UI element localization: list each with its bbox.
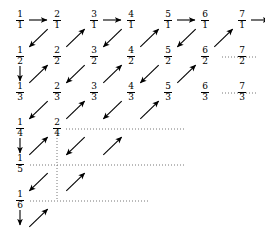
numerator: 5 bbox=[161, 10, 175, 19]
fraction-cell: 12 bbox=[13, 46, 27, 66]
diagonal-arrow-up-right bbox=[66, 29, 84, 47]
cantor-diagonal-figure: 1121314151617112223242526272132333435363… bbox=[0, 0, 265, 229]
denominator: 1 bbox=[235, 21, 249, 30]
fraction-cell: 71 bbox=[235, 10, 249, 30]
fraction-cell: 73 bbox=[235, 82, 249, 102]
diagonal-arrow-down-left bbox=[103, 29, 121, 47]
numerator: 5 bbox=[161, 46, 175, 55]
denominator: 5 bbox=[13, 165, 27, 174]
numerator: 4 bbox=[124, 46, 138, 55]
denominator: 4 bbox=[50, 129, 64, 138]
fraction-cell: 31 bbox=[87, 10, 101, 30]
denominator: 2 bbox=[13, 57, 27, 66]
numerator: 1 bbox=[13, 10, 27, 19]
arrow-layer bbox=[0, 0, 265, 229]
numerator: 7 bbox=[235, 46, 249, 55]
diagonal-arrow-up-right bbox=[214, 29, 232, 47]
diagonal-arrow-up-right bbox=[29, 137, 47, 155]
denominator: 6 bbox=[13, 201, 27, 210]
fraction-cell: 52 bbox=[161, 46, 175, 66]
fraction-cell: 21 bbox=[50, 10, 64, 30]
numerator: 2 bbox=[50, 10, 64, 19]
diagonal-arrow-up-right bbox=[29, 65, 47, 83]
denominator: 3 bbox=[198, 93, 212, 102]
diagonal-arrow-down-left bbox=[177, 29, 195, 47]
fraction-cell: 63 bbox=[198, 82, 212, 102]
numerator: 4 bbox=[124, 10, 138, 19]
numerator: 1 bbox=[13, 46, 27, 55]
numerator: 6 bbox=[198, 10, 212, 19]
numerator: 1 bbox=[13, 82, 27, 91]
numerator: 3 bbox=[87, 82, 101, 91]
numerator: 6 bbox=[198, 82, 212, 91]
diagonal-arrow-down-left bbox=[140, 65, 158, 83]
diagonal-arrow-up-right bbox=[140, 101, 158, 119]
numerator: 7 bbox=[235, 82, 249, 91]
denominator: 4 bbox=[13, 129, 27, 138]
fraction-cell: 15 bbox=[13, 154, 27, 174]
fraction-cell: 23 bbox=[50, 82, 64, 102]
diagonal-arrow-up-right bbox=[103, 65, 121, 83]
fraction-cell: 51 bbox=[161, 10, 175, 30]
fraction-cell: 42 bbox=[124, 46, 138, 66]
diagonal-arrow-up-right bbox=[29, 209, 47, 227]
diagonal-arrow-down-left bbox=[29, 29, 47, 47]
denominator: 1 bbox=[50, 21, 64, 30]
denominator: 1 bbox=[124, 21, 138, 30]
denominator: 2 bbox=[235, 57, 249, 66]
fraction-cell: 33 bbox=[87, 82, 101, 102]
fraction-cell: 13 bbox=[13, 82, 27, 102]
diagonal-arrow-up-right bbox=[140, 29, 158, 47]
diagonal-arrow-up-right bbox=[103, 137, 121, 155]
denominator: 2 bbox=[198, 57, 212, 66]
denominator: 3 bbox=[50, 93, 64, 102]
numerator: 5 bbox=[161, 82, 175, 91]
denominator: 2 bbox=[50, 57, 64, 66]
numerator: 2 bbox=[50, 82, 64, 91]
fraction-cell: 41 bbox=[124, 10, 138, 30]
diagonal-arrow-down-left bbox=[66, 137, 84, 155]
diagonal-arrow-down-left bbox=[29, 173, 47, 191]
numerator: 2 bbox=[50, 118, 64, 127]
denominator: 3 bbox=[235, 93, 249, 102]
numerator: 6 bbox=[198, 46, 212, 55]
denominator: 2 bbox=[124, 57, 138, 66]
fraction-cell: 43 bbox=[124, 82, 138, 102]
numerator: 1 bbox=[13, 154, 27, 163]
denominator: 1 bbox=[13, 21, 27, 30]
fraction-cell: 14 bbox=[13, 118, 27, 138]
fraction-cell: 11 bbox=[13, 10, 27, 30]
denominator: 1 bbox=[161, 21, 175, 30]
denominator: 3 bbox=[161, 93, 175, 102]
diagonal-arrow-up-right bbox=[177, 65, 195, 83]
fraction-cell: 72 bbox=[235, 46, 249, 66]
fraction-cell: 61 bbox=[198, 10, 212, 30]
denominator: 1 bbox=[87, 21, 101, 30]
numerator: 2 bbox=[50, 46, 64, 55]
diagonal-arrow-down-left bbox=[29, 101, 47, 119]
denominator: 1 bbox=[198, 21, 212, 30]
diagonal-arrow-down-left bbox=[66, 65, 84, 83]
numerator: 1 bbox=[13, 118, 27, 127]
denominator: 3 bbox=[87, 93, 101, 102]
diagonal-arrow-up-right bbox=[66, 173, 84, 191]
fraction-cell: 24 bbox=[50, 118, 64, 138]
numerator: 3 bbox=[87, 10, 101, 19]
numerator: 3 bbox=[87, 46, 101, 55]
denominator: 2 bbox=[87, 57, 101, 66]
numerator: 4 bbox=[124, 82, 138, 91]
fraction-cell: 22 bbox=[50, 46, 64, 66]
fraction-cell: 53 bbox=[161, 82, 175, 102]
fraction-cell: 32 bbox=[87, 46, 101, 66]
denominator: 3 bbox=[13, 93, 27, 102]
denominator: 3 bbox=[124, 93, 138, 102]
diagonal-arrow-up-right bbox=[66, 101, 84, 119]
fraction-cell: 16 bbox=[13, 190, 27, 210]
denominator: 2 bbox=[161, 57, 175, 66]
fraction-cell: 62 bbox=[198, 46, 212, 66]
numerator: 1 bbox=[13, 190, 27, 199]
numerator: 7 bbox=[235, 10, 249, 19]
diagonal-arrow-down-left bbox=[103, 101, 121, 119]
